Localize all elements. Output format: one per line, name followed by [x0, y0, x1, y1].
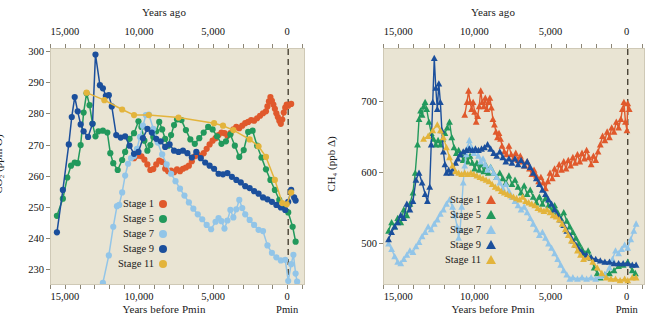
x-minor-tick [383, 285, 384, 289]
legend-label: Stage 5 [450, 209, 481, 220]
x-minor-tick [474, 44, 475, 48]
x-minor-tick [272, 285, 273, 289]
x-minor-tick [80, 285, 81, 289]
ch4-plot-area [383, 48, 645, 285]
x-minor-tick [505, 285, 506, 289]
y-tick-label: 600 [343, 166, 377, 177]
ch4-series-canvas [384, 49, 645, 285]
x-tick-label-top: 5,000 [201, 26, 225, 37]
x-minor-tick [272, 44, 273, 48]
legend-item-stage-7: Stage 7 [118, 226, 167, 241]
x-minor-tick [581, 285, 582, 289]
y-tick-label: 260 [10, 170, 44, 181]
x-minor-tick [505, 44, 506, 48]
x-minor-tick [169, 285, 170, 289]
legend-item-stage-11: Stage 11 [445, 252, 496, 267]
x-minor-tick [198, 285, 199, 289]
legend-item-stage-5: Stage 5 [118, 211, 167, 226]
x-minor-tick [520, 285, 521, 289]
legend-circle-marker-icon [159, 245, 167, 253]
x-tick-label-top: 0 [285, 26, 290, 37]
legend-circle-marker-icon [159, 215, 167, 223]
co2-legend: Stage 1Stage 5Stage 7Stage 9Stage 11 [118, 196, 167, 271]
x-tick-label-bottom: 5,000 [201, 291, 225, 302]
legend-triangle-marker-icon [486, 240, 496, 249]
series-stage-9 [54, 52, 299, 236]
x-minor-tick [213, 44, 214, 48]
y-tick-label: 500 [343, 237, 377, 248]
legend-label: Stage 11 [445, 254, 481, 265]
x-minor-tick [50, 44, 51, 48]
x-minor-tick [139, 285, 140, 289]
ch4-bottom-axis-title: Years before Pmin [329, 303, 657, 315]
x-minor-tick [258, 44, 259, 48]
x-minor-tick [169, 44, 170, 48]
x-minor-tick [383, 44, 384, 48]
y-tick-label: 700 [343, 96, 377, 107]
x-minor-tick [444, 44, 445, 48]
x-minor-tick [287, 44, 288, 48]
x-minor-tick [581, 44, 582, 48]
x-minor-tick [183, 44, 184, 48]
x-minor-tick [535, 44, 536, 48]
x-minor-tick [258, 285, 259, 289]
y-tick-label: 230 [10, 264, 44, 275]
co2-plot-area [50, 48, 305, 285]
legend-label: Stage 7 [450, 224, 481, 235]
x-minor-tick [124, 285, 125, 289]
x-minor-tick [627, 44, 628, 48]
x-minor-tick [566, 285, 567, 289]
co2-series-canvas [51, 49, 305, 285]
co2-top-axis-title: Years ago [0, 6, 328, 18]
x-tick-label-bottom: 10,000 [125, 291, 154, 302]
legend-label: Stage 1 [123, 198, 154, 209]
legend-item-stage-9: Stage 9 [118, 241, 167, 256]
x-minor-tick [243, 285, 244, 289]
y-tick [46, 82, 50, 83]
y-tick [379, 172, 383, 173]
panel-ch4: Years ago Years before Pmin CH₄ (ppb Δ) … [329, 0, 657, 328]
panel-co2: Years ago Years before Pmin CO₂ (ppm O) … [0, 0, 328, 328]
x-minor-tick [520, 44, 521, 48]
x-tick-label-bottom: 15,000 [384, 291, 413, 302]
y-tick-label: 240 [10, 233, 44, 244]
y-tick [379, 243, 383, 244]
legend-triangle-marker-icon [486, 255, 496, 264]
x-minor-tick [94, 44, 95, 48]
legend-circle-marker-icon [159, 200, 167, 208]
y-tick-label: 250 [10, 202, 44, 213]
x-minor-tick [198, 44, 199, 48]
x-minor-tick [228, 44, 229, 48]
y-tick [46, 207, 50, 208]
legend-label: Stage 5 [123, 213, 154, 224]
x-minor-tick [596, 44, 597, 48]
x-minor-tick [109, 285, 110, 289]
x-minor-tick [183, 285, 184, 289]
y-tick-label: 270 [10, 139, 44, 150]
x-minor-tick [551, 44, 552, 48]
x-minor-tick [109, 44, 110, 48]
x-minor-tick [459, 44, 460, 48]
x-minor-tick [535, 285, 536, 289]
x-minor-tick [444, 285, 445, 289]
y-tick [46, 238, 50, 239]
ch4-top-axis-title: Years ago [329, 6, 657, 18]
x-tick-label-top: 10,000 [460, 26, 489, 37]
y-tick [379, 101, 383, 102]
co2-y-axis-label: CO₂ (ppm O) [0, 134, 4, 193]
x-tick-label-bottom: 5,000 [539, 291, 563, 302]
legend-triangle-marker-icon [486, 210, 496, 219]
ch4-legend: Stage 1Stage 5Stage 7Stage 9Stage 11 [445, 192, 496, 267]
x-minor-tick [50, 285, 51, 289]
legend-item-stage-11: Stage 11 [118, 256, 167, 271]
x-minor-tick [596, 285, 597, 289]
y-tick-label: 300 [10, 46, 44, 57]
x-minor-tick [80, 44, 81, 48]
legend-item-stage-1: Stage 1 [118, 196, 167, 211]
x-minor-tick [302, 285, 303, 289]
x-minor-tick [474, 285, 475, 289]
y-tick-label: 290 [10, 77, 44, 88]
x-minor-tick [243, 44, 244, 48]
x-minor-tick [551, 285, 552, 289]
x-minor-tick [65, 285, 66, 289]
